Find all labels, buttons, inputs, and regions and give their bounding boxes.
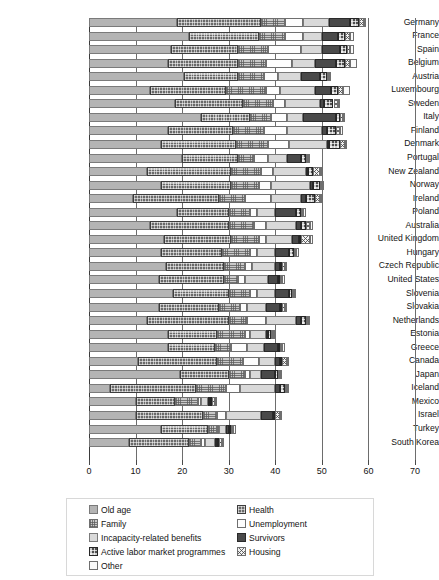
- bar-segment: [273, 99, 285, 108]
- bar-segment: [252, 262, 275, 271]
- bar-segment: [292, 235, 299, 244]
- bar-segment: [224, 262, 245, 271]
- axis-tick-label: 60: [355, 466, 381, 476]
- bar-segment: [340, 45, 347, 54]
- legend-item[interactable]: Unemployment: [237, 517, 307, 530]
- bar-segment: [268, 154, 287, 163]
- axis-tick-label: 50: [309, 466, 335, 476]
- bar-segment: [245, 262, 252, 271]
- legend-item[interactable]: Health: [237, 503, 274, 516]
- bar-segment: [89, 140, 161, 149]
- bar-segment: [301, 235, 310, 244]
- legend-item[interactable]: Old age: [89, 503, 131, 516]
- bar-segment: [350, 18, 359, 27]
- axis-tick-label: 10: [123, 466, 149, 476]
- bar-segment: [89, 262, 166, 271]
- bar-row: [89, 289, 415, 298]
- bar-row: [89, 181, 415, 190]
- bar-row: [89, 59, 415, 68]
- bar-segment: [329, 72, 331, 81]
- bar-row: [89, 154, 415, 163]
- bar-segment: [89, 357, 138, 366]
- bar-segment: [201, 397, 208, 406]
- bar-segment: [257, 248, 276, 257]
- bar-segment: [320, 167, 322, 176]
- bar-segment: [166, 262, 224, 271]
- bar-segment: [280, 411, 282, 420]
- bar-segment: [259, 235, 266, 244]
- plot-area: GermanyFranceSpainBelgiumAustriaLuxembou…: [0, 0, 439, 492]
- legend-item[interactable]: Family: [89, 517, 126, 530]
- bar-segment: [161, 425, 208, 434]
- bar-segment: [196, 384, 226, 393]
- bar-segment: [129, 438, 190, 447]
- bar-segment: [219, 303, 240, 312]
- bar-segment: [313, 181, 320, 190]
- bar-segment: [261, 167, 273, 176]
- bar-segment: [329, 140, 341, 149]
- bar-segment: [168, 330, 217, 339]
- bar-segment: [89, 438, 129, 447]
- legend-label: Active labor market programmes: [101, 547, 225, 557]
- bar-segment: [89, 397, 136, 406]
- bar-segment: [271, 181, 311, 190]
- bar-segment: [89, 86, 150, 95]
- bar-segment: [150, 86, 227, 95]
- legend-swatch-icon: [89, 561, 98, 570]
- bar-segment: [89, 411, 136, 420]
- bar-segment: [329, 18, 350, 27]
- bar-segment: [247, 316, 266, 325]
- bar-segment: [215, 397, 217, 406]
- bar-segment: [203, 411, 217, 420]
- bar-segment: [89, 370, 180, 379]
- bar-segment: [287, 154, 301, 163]
- bar-row: [89, 221, 415, 230]
- bar-row: [89, 262, 415, 271]
- bar-segment: [320, 72, 327, 81]
- bar-segment: [240, 384, 275, 393]
- bar-row: [89, 113, 415, 122]
- bar-segment: [282, 275, 284, 284]
- bar-segment: [343, 113, 345, 122]
- bar-segment: [231, 181, 259, 190]
- bar-segment: [89, 126, 168, 135]
- legend-item[interactable]: Housing: [237, 545, 281, 558]
- bar-segment: [89, 303, 159, 312]
- bar-segment: [147, 167, 231, 176]
- bar-segment: [229, 221, 255, 230]
- bar-segment: [278, 72, 301, 81]
- bar-segment: [259, 181, 271, 190]
- bar-series-group: [89, 18, 415, 460]
- bar-row: [89, 357, 415, 366]
- bar-segment: [159, 303, 220, 312]
- bar-segment: [280, 86, 315, 95]
- bar-segment: [315, 86, 331, 95]
- bar-segment: [224, 275, 238, 284]
- bar-segment: [177, 18, 261, 27]
- bar-segment: [250, 370, 262, 379]
- bar-segment: [266, 221, 296, 230]
- legend-item[interactable]: Other: [89, 559, 123, 572]
- bar-segment: [238, 275, 245, 284]
- legend-swatch-icon: [89, 547, 98, 556]
- legend-item[interactable]: Survivors: [237, 531, 285, 544]
- bar-segment: [306, 194, 315, 203]
- bar-row: [89, 32, 415, 41]
- bar-segment: [266, 316, 296, 325]
- bar-row: [89, 330, 415, 339]
- legend-item[interactable]: Incapacity-related benefits: [89, 531, 201, 544]
- bar-segment: [175, 99, 243, 108]
- bar-segment: [161, 181, 231, 190]
- bar-segment: [89, 289, 173, 298]
- legend-item[interactable]: Active labor market programmes: [89, 545, 225, 558]
- bar-row: [89, 167, 415, 176]
- bar-segment: [266, 235, 292, 244]
- bar-segment: [322, 32, 338, 41]
- bar-segment: [89, 275, 159, 284]
- bar-segment: [254, 221, 266, 230]
- bar-segment: [168, 126, 233, 135]
- legend-label: Unemployment: [249, 519, 307, 529]
- bar-segment: [189, 438, 201, 447]
- bar-row: [89, 72, 415, 81]
- bar-segment: [340, 126, 342, 135]
